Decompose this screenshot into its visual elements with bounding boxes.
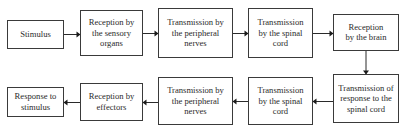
node-transmission-peripheral-1: Transmission bythe peripheralnerves: [159, 9, 233, 58]
node-label-line: response to the: [340, 93, 392, 103]
arrow-head: [64, 100, 68, 106]
node-transmission-response-spinal: Transmission ofresponse to thespinal cor…: [334, 75, 399, 123]
node-label-line: Reception: [349, 22, 385, 32]
node-label-line: nerves: [184, 106, 207, 116]
node-label-line: cord: [273, 106, 289, 116]
node-reception-sensory: Reception bythe sensoryorgans: [81, 11, 143, 56]
node-label-line: by the spinal: [259, 96, 304, 106]
node-label-line: Stimulus: [20, 29, 51, 39]
arrow-stimulus-to-reception-sensory: [64, 32, 81, 38]
arrow-head: [363, 71, 369, 75]
node-reception-effectors: Reception byeffectors: [81, 84, 143, 121]
arrow-reception-sensory-to-transmission-peripheral-1: [143, 31, 159, 37]
node-label-line: the peripheral: [172, 96, 220, 106]
arrow-transmission-spinal-2-to-transmission-peripheral-2: [233, 99, 249, 105]
node-stimulus: Stimulus: [8, 21, 64, 49]
node-label-line: Transmission by: [167, 85, 224, 95]
node-transmission-peripheral-2: Transmission bythe peripheralnerves: [159, 78, 233, 125]
node-label-line: by the brain: [345, 32, 387, 42]
arrow-head: [155, 31, 159, 37]
node-label-line: Transmission: [257, 17, 304, 27]
arrow-transmission-response-spinal-to-transmission-spinal-2: [313, 99, 334, 105]
arrow-transmission-peripheral-2-to-reception-effectors: [143, 100, 159, 106]
arrow-transmission-peripheral-1-to-transmission-spinal-1: [233, 31, 249, 37]
flowchart-diagram: StimulusReception bythe sensoryorgansTra…: [0, 0, 408, 134]
node-reception-brain: Receptionby the brain: [334, 15, 399, 51]
node-label-line: spinal cord: [347, 104, 386, 114]
node-label-line: nerves: [184, 38, 207, 48]
arrow-head: [233, 99, 237, 105]
node-label-line: Transmission: [257, 85, 304, 95]
node-label-line: effectors: [97, 102, 128, 112]
node-label-line: Transmission of: [338, 83, 393, 93]
arrow-head: [77, 32, 81, 38]
arrow-head: [313, 99, 317, 105]
node-label-line: the sensory: [92, 28, 132, 38]
node-label-line: stimulus: [21, 102, 51, 112]
arrow-head: [330, 31, 334, 37]
node-label-line: Reception by: [89, 91, 135, 101]
arrow-reception-brain-to-transmission-response-spinal: [363, 51, 369, 75]
node-transmission-spinal-1: Transmissionby the spinalcord: [249, 9, 313, 58]
arrow-head: [143, 100, 147, 106]
arrow-transmission-spinal-1-to-reception-brain: [313, 31, 334, 37]
node-label-line: Response to: [15, 91, 57, 101]
node-label-line: Transmission by: [167, 17, 224, 27]
node-response: Response tostimulus: [8, 88, 64, 117]
node-label-line: cord: [273, 38, 289, 48]
node-label-line: organs: [100, 38, 123, 48]
arrow-head: [245, 31, 249, 37]
node-label-line: the peripheral: [172, 28, 220, 38]
arrow-reception-effectors-to-response: [64, 100, 81, 106]
node-transmission-spinal-2: Transmissionby the spinalcord: [249, 78, 313, 125]
node-label-line: by the spinal: [259, 28, 304, 38]
node-label-line: Reception by: [89, 17, 135, 27]
